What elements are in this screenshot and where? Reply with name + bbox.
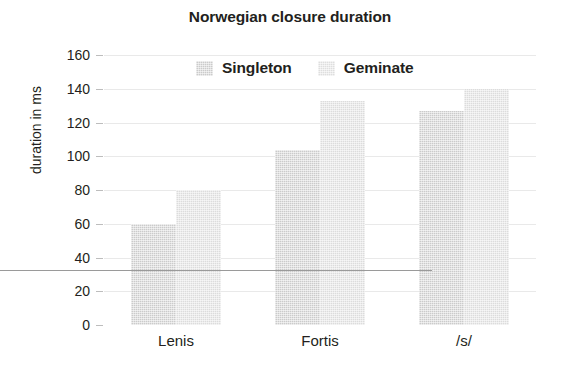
bar-Fortis-geminate (320, 101, 365, 325)
y-axis-tick-label: 160 (8, 47, 90, 63)
y-axis-tick-mark (96, 291, 103, 292)
y-axis-tick-label: 80 (8, 182, 90, 198)
y-axis-tick-mark (96, 89, 103, 90)
y-axis-tick-label: 140 (8, 81, 90, 97)
bar-s-singleton (419, 111, 464, 325)
y-axis-tick-label: 40 (8, 250, 90, 266)
y-axis-tick-mark (96, 123, 103, 124)
x-axis-label: /s/ (392, 332, 536, 349)
legend: Singleton Geminate (196, 59, 414, 77)
x-axis-label: Fortis (248, 332, 392, 349)
x-axis-line (0, 270, 432, 271)
legend-item-singleton: Singleton (196, 59, 292, 77)
y-axis-tick-label: 60 (8, 216, 90, 232)
x-axis-label: Lenis (104, 332, 248, 349)
bar-Lenis-geminate (176, 190, 221, 325)
legend-label-geminate: Geminate (344, 59, 414, 77)
plot-area (104, 55, 536, 325)
legend-label-singleton: Singleton (222, 59, 292, 77)
y-axis-tick-mark (96, 224, 103, 225)
bar-Fortis-singleton (275, 150, 320, 326)
y-axis-tick-mark (96, 156, 103, 157)
legend-swatch-singleton-icon (196, 61, 213, 76)
chart-title: Norwegian closure duration (0, 8, 580, 26)
legend-swatch-geminate-icon (318, 61, 335, 76)
y-axis-tick-mark (96, 55, 103, 56)
bar-Lenis-singleton (131, 224, 176, 325)
bar-chart: Norwegian closure duration duration in m… (0, 0, 580, 369)
y-axis-tick-mark (96, 325, 103, 326)
y-axis-tick-label: 100 (8, 148, 90, 164)
bar-s-geminate (464, 89, 509, 325)
legend-item-geminate: Geminate (318, 59, 414, 77)
gridline (104, 55, 536, 56)
y-axis-tick-mark (96, 258, 103, 259)
y-axis-tick-label: 0 (8, 317, 90, 333)
y-axis-tick-label: 20 (8, 283, 90, 299)
y-axis-tick-label: 120 (8, 115, 90, 131)
y-axis-tick-mark (96, 190, 103, 191)
